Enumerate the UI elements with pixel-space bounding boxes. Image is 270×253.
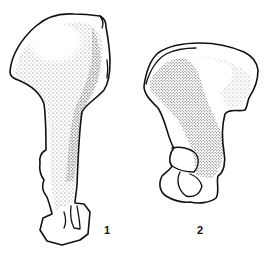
illustration-canvas (0, 0, 270, 253)
specimen-label-2: 2 (197, 224, 203, 236)
bone-1-edge-line (107, 60, 108, 78)
bone-1 (10, 14, 110, 245)
specimen-label-1: 1 (104, 224, 110, 236)
bone-2 (144, 43, 258, 203)
